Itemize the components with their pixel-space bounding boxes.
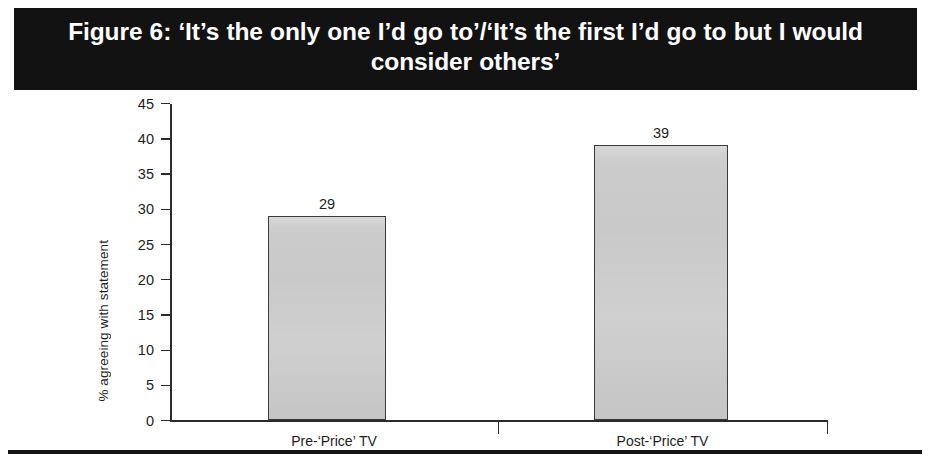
y-tick-35: 35 — [161, 173, 170, 174]
y-tick-40: 40 — [161, 138, 170, 139]
bar-pre-price-tv[interactable]: 29 — [268, 216, 386, 420]
y-tick-label-20: 20 — [138, 273, 154, 288]
x-axis-category-divider-tick — [498, 421, 499, 434]
y-axis-title: % agreeing with statement — [96, 240, 116, 402]
figure-container: Figure 6: ‘It’s the only one I’d go to’/… — [0, 0, 931, 464]
y-tick-label-35: 35 — [138, 167, 154, 182]
y-tick-10: 10 — [161, 350, 170, 351]
y-tick-label-10: 10 — [138, 343, 154, 358]
figure-title: Figure 6: ‘It’s the only one I’d go to’/… — [40, 17, 891, 77]
y-axis-line — [170, 104, 172, 421]
figure-title-banner: Figure 6: ‘It’s the only one I’d go to’/… — [14, 8, 917, 90]
y-tick-label-45: 45 — [138, 96, 154, 111]
x-axis-label-post-price-tv: Post-‘Price’ TV — [498, 434, 827, 448]
y-tick-30: 30 — [161, 209, 170, 210]
y-tick-15: 15 — [161, 314, 170, 315]
x-axis-label-pre-price-tv: Pre-‘Price’ TV — [170, 434, 498, 448]
y-tick-label-40: 40 — [138, 132, 154, 147]
bar-post-price-tv[interactable]: 39 — [594, 145, 728, 420]
y-tick-25: 25 — [161, 244, 170, 245]
y-tick-label-5: 5 — [146, 378, 154, 393]
chart-plot-area: % agreeing with statement 0 5 10 15 20 2… — [0, 90, 931, 464]
y-tick-label-0: 0 — [146, 413, 154, 428]
y-tick-label-15: 15 — [138, 308, 154, 323]
y-tick-0: 0 — [161, 420, 170, 421]
bar-value-label-1: 39 — [595, 126, 727, 141]
y-tick-45: 45 — [161, 103, 170, 104]
y-tick-20: 20 — [161, 279, 170, 280]
y-tick-label-30: 30 — [138, 202, 154, 217]
y-tick-5: 5 — [161, 385, 170, 386]
x-axis-end-tick — [827, 421, 828, 434]
y-tick-label-25: 25 — [138, 237, 154, 252]
bottom-divider-rule — [8, 450, 922, 454]
bar-value-label-0: 29 — [269, 197, 385, 212]
